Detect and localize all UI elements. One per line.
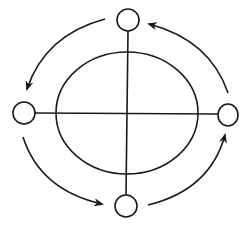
node-left	[13, 102, 35, 124]
vertical-axis-line	[126, 31, 128, 195]
cycle-diagram	[0, 0, 249, 229]
node-top	[117, 9, 139, 31]
arrow-left-to-bottom	[23, 137, 102, 204]
arrow-top-to-left	[27, 19, 105, 89]
node-bottom	[115, 195, 137, 217]
node-right	[218, 104, 238, 126]
